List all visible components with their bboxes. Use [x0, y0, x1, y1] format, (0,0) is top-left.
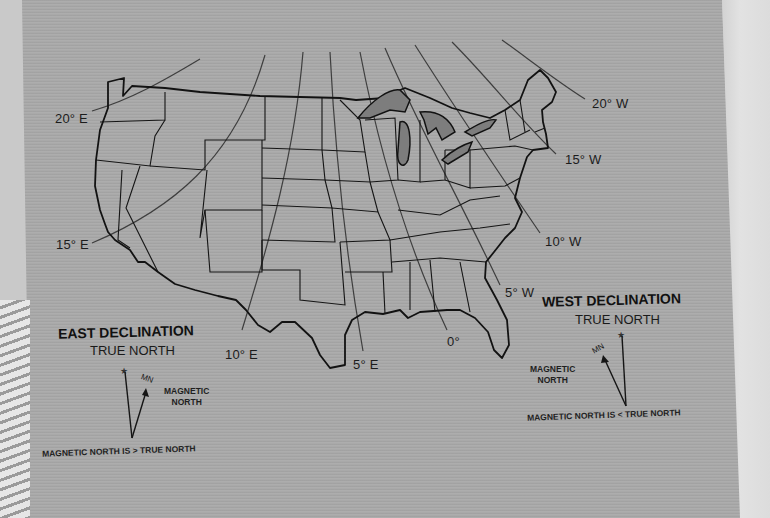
true-north-arrow [622, 336, 626, 406]
label-15w: 15° W [565, 152, 602, 167]
isogonic-line-5w [385, 48, 500, 285]
arrowhead-icon [142, 388, 149, 397]
true-north-star-icon: ★ [617, 330, 625, 340]
west-true-north-label: TRUE NORTH [575, 312, 660, 327]
true-north-star-icon: ★ [120, 366, 128, 376]
lake-superior [358, 90, 410, 118]
arrowhead-icon [601, 355, 609, 363]
isogonic-line-15w [452, 42, 556, 154]
label-15e: 15° E [56, 237, 89, 252]
lake-erie [442, 142, 472, 164]
label-20e: 20° E [55, 111, 88, 126]
label-0: 0° [447, 334, 460, 349]
west-declination-diagram: ★ [601, 330, 626, 406]
label-10e: 10° E [225, 347, 258, 362]
lake-huron [420, 112, 455, 140]
isogonic-line-10w [415, 45, 540, 233]
east-true-north-label: TRUE NORTH [90, 343, 175, 358]
great-lakes [358, 90, 496, 165]
isogonic-line-5e [330, 52, 363, 351]
east-magnetic-north-label: MAGNETIC NORTH [164, 386, 209, 408]
true-north-arrow [125, 372, 132, 438]
label-5e: 5° E [353, 357, 379, 372]
us-declination-map: ★ ★ [0, 0, 770, 518]
magnetic-north-arrow [132, 392, 146, 438]
isogonic-line-20w [502, 40, 585, 99]
west-magnetic-north-label: MAGNETIC NORTH [530, 364, 575, 386]
label-10w: 10° W [545, 234, 582, 249]
lake-michigan [398, 122, 410, 166]
isogonic-line-15e [92, 55, 265, 243]
label-20w: 20° W [592, 96, 629, 111]
label-5w: 5° W [505, 285, 534, 300]
magnetic-north-arrow [605, 360, 626, 406]
